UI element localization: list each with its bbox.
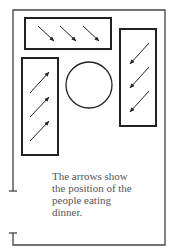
top-table-arrows — [38, 26, 99, 41]
right-table — [120, 29, 156, 126]
caption: The arrows show the position of the peop… — [52, 170, 162, 218]
caption-line-2: the position of the — [52, 182, 162, 194]
caption-line-4: dinner. — [52, 206, 162, 218]
round-table — [66, 62, 112, 108]
caption-line-3: people eating — [52, 194, 162, 206]
right-table-arrows — [130, 43, 149, 112]
caption-line-1: The arrows show — [52, 170, 162, 182]
left-table-arrows — [30, 72, 49, 141]
